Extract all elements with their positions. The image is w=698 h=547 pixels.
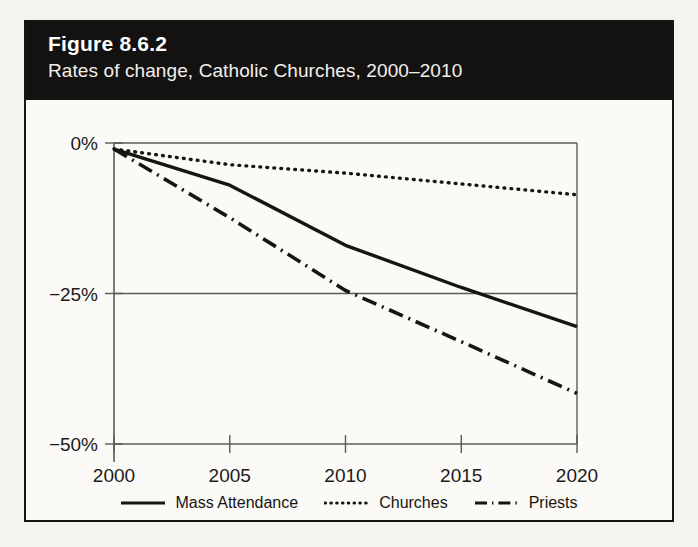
series-line-mass-attendance: [114, 149, 577, 327]
figure-number: Figure 8.6.2: [48, 31, 672, 57]
x-axis-label: 2015: [440, 465, 482, 486]
figure-container: Figure 8.6.2 Rates of change, Catholic C…: [24, 20, 674, 522]
legend-swatch-dotted: [324, 497, 370, 509]
legend-swatch-dash-dot: [474, 497, 520, 509]
legend-label-priests: Priests: [529, 494, 578, 512]
legend-item-mass-attendance: Mass Attendance: [120, 494, 298, 512]
line-chart: 0%−25%−50% 20002005201020152020: [26, 100, 672, 520]
x-axis-label: 2010: [324, 465, 366, 486]
legend-label-churches: Churches: [379, 494, 447, 512]
figure-subtitle: Rates of change, Catholic Churches, 2000…: [48, 59, 672, 84]
x-axis-label: 2000: [93, 465, 135, 486]
x-axis-label: 2005: [209, 465, 251, 486]
x-axis-label: 2020: [556, 465, 598, 486]
data-series: [114, 149, 577, 393]
series-line-priests: [114, 149, 577, 393]
y-axis-label: −50%: [49, 434, 98, 455]
x-axis-labels: 20002005201020152020: [93, 465, 598, 486]
legend-item-priests: Priests: [474, 494, 578, 512]
chart-legend: Mass Attendance Churches Priests: [26, 494, 672, 512]
y-axis-label: −25%: [49, 284, 98, 305]
y-axis-label: 0%: [71, 133, 99, 154]
legend-item-churches: Churches: [324, 494, 447, 512]
legend-swatch-solid: [120, 497, 166, 509]
legend-label-mass-attendance: Mass Attendance: [175, 494, 298, 512]
y-axis-labels: 0%−25%−50%: [49, 133, 98, 455]
plot-area: 0%−25%−50% 20002005201020152020: [26, 100, 672, 520]
figure-page: Figure 8.6.2 Rates of change, Catholic C…: [0, 0, 698, 547]
title-banner: Figure 8.6.2 Rates of change, Catholic C…: [26, 22, 672, 100]
